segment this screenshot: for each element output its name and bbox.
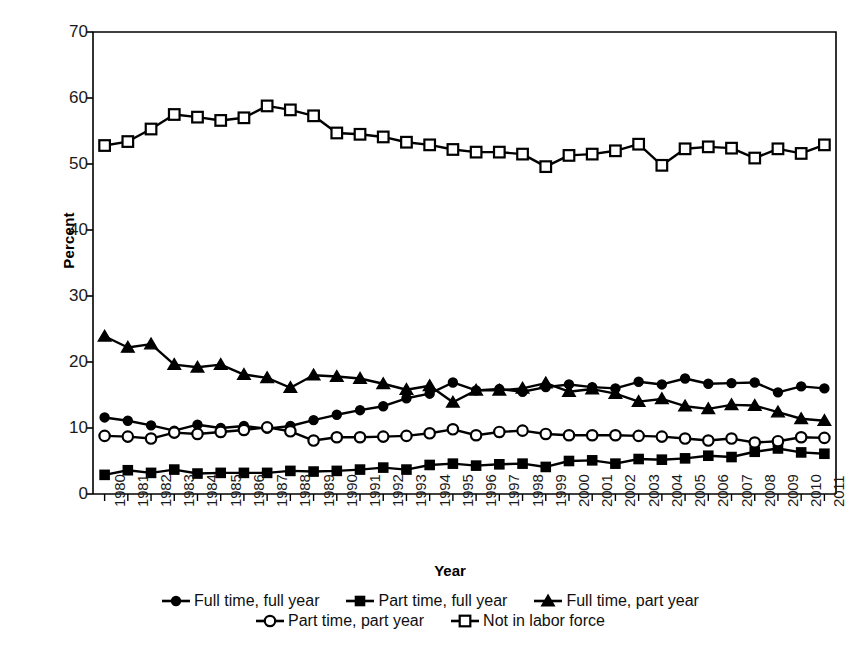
legend-item-label: Not in labor force: [482, 612, 605, 630]
legend-marker-open-circle: [255, 613, 285, 629]
x-axis-tick-label: 1985: [227, 474, 244, 507]
x-axis-tick-label: 1998: [529, 474, 546, 507]
legend-item-label: Full time, full year: [193, 592, 319, 610]
x-axis-tick-label: 1995: [459, 474, 476, 507]
x-axis-tick-label: 1997: [505, 474, 522, 507]
legend-item-label: Full time, part year: [565, 592, 698, 610]
x-axis-tick-label: 1987: [273, 474, 290, 507]
x-axis-tick-label: 1990: [343, 474, 360, 507]
x-axis-tick-label: 1992: [389, 474, 406, 507]
x-axis-tick-label: 1996: [482, 474, 499, 507]
x-axis-tick-label: 2005: [691, 474, 708, 507]
legend-marker-filled-circle: [161, 593, 191, 609]
x-axis-tick-label: 2011: [830, 476, 847, 507]
x-axis-title: Year: [0, 562, 860, 579]
legend-marker-open-square: [450, 613, 480, 629]
legend-item[interactable]: Not in labor force: [450, 612, 605, 630]
legend-marker-filled-square: [345, 593, 375, 609]
x-axis-tick-label: 1984: [203, 474, 220, 507]
legend-row: Full time, full yearPart time, full year…: [0, 592, 860, 610]
x-axis-tick-label: 2003: [645, 474, 662, 507]
x-axis-tick-label: 2007: [738, 474, 755, 507]
x-axis-tick-label: 1986: [250, 474, 267, 507]
legend-row: Part time, part yearNot in labor force: [0, 612, 860, 630]
x-axis-tick-label: 1999: [552, 474, 569, 507]
x-axis-tick-label: 2006: [714, 474, 731, 507]
chart-figure: 010203040506070 198019811982198319841985…: [0, 0, 860, 671]
x-axis-tick-label: 2009: [784, 474, 801, 507]
legend-item[interactable]: Part time, part year: [255, 612, 424, 630]
legend-item[interactable]: Full time, full year: [161, 592, 319, 610]
x-axis-tick-label: 2000: [575, 474, 592, 507]
x-axis-tick-label: 1994: [436, 474, 453, 507]
x-axis-tick-label: 2008: [761, 474, 778, 507]
data-point-filled-circle: [172, 597, 181, 606]
legend-item-label: Part time, part year: [287, 612, 424, 630]
x-axis-tick-label: 1983: [180, 474, 197, 507]
x-axis-tick-label: 2002: [621, 474, 638, 507]
x-axis-tick-label: 2010: [807, 474, 824, 507]
legend-item[interactable]: Part time, full year: [345, 592, 507, 610]
x-axis-tick-label: 1993: [412, 474, 429, 507]
x-axis-tick-label: 2004: [668, 474, 685, 507]
data-point-open-square: [460, 616, 471, 627]
x-axis-tick-label: 1991: [366, 474, 383, 507]
legend-item-label: Part time, full year: [377, 592, 507, 610]
x-axis-tick-label: 1989: [320, 474, 337, 507]
x-axis-tick-label: 1982: [157, 474, 174, 507]
legend-marker-filled-triangle: [533, 593, 563, 609]
x-axis-tick-label: 2001: [598, 474, 615, 507]
data-point-open-circle: [265, 616, 275, 626]
x-axis-tick-label: 1981: [134, 474, 151, 507]
x-axis-tick-label: 1988: [296, 474, 313, 507]
data-point-filled-square: [356, 597, 365, 606]
x-axis-tick-label: 1980: [111, 474, 128, 507]
legend-item[interactable]: Full time, part year: [533, 592, 698, 610]
y-axis-title: Percent: [60, 181, 77, 301]
chart-legend: Full time, full yearPart time, full year…: [0, 592, 860, 632]
